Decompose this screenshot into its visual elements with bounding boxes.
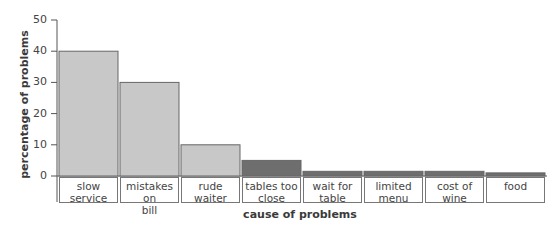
category-label: tables tooclose (242, 177, 301, 203)
category-label: mistakes onbill (120, 177, 179, 203)
bar-slow-service (59, 51, 118, 176)
bar-cost-of-wine (425, 171, 484, 176)
category-label: cost ofwine (425, 177, 484, 203)
bar-wait-for-table (303, 171, 362, 176)
bar-limited-menu (364, 171, 423, 176)
bar-rude-waiter (181, 145, 240, 176)
category-label: wait fortable (303, 177, 362, 203)
y-tick-label: 0 (25, 169, 47, 182)
y-tick-label: 50 (25, 13, 47, 26)
pareto-bar-chart: percentage of problems cause of problems… (0, 0, 556, 231)
y-tick-label: 30 (25, 75, 47, 88)
bar-food (486, 173, 545, 176)
category-label: food (486, 177, 545, 203)
bar-tables-too-close (242, 160, 301, 176)
bar-mistakes-on-bill (120, 82, 179, 176)
category-label: slowservice (59, 177, 118, 203)
y-tick-label: 20 (25, 107, 47, 120)
y-tick-label: 40 (25, 44, 47, 57)
y-tick-label: 10 (25, 138, 47, 151)
category-label: rudewaiter (181, 177, 240, 203)
category-label: limitedmenu (364, 177, 423, 203)
